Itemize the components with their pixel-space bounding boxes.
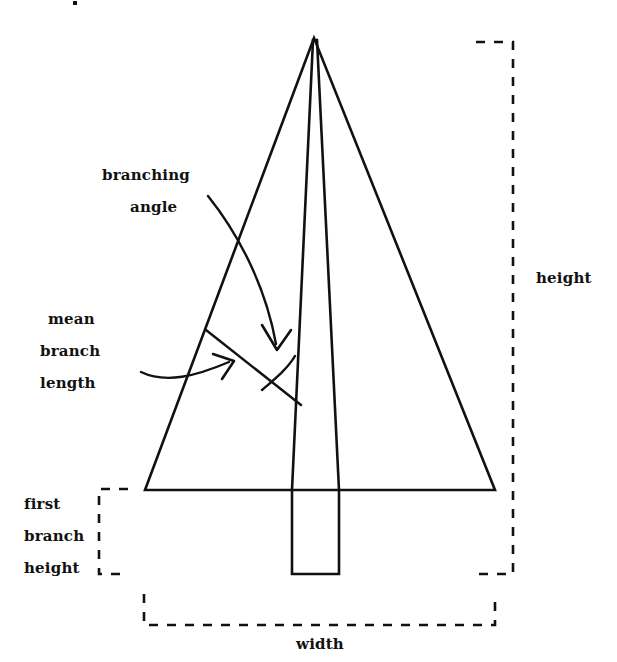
trunk-taper	[292, 40, 339, 574]
label-mean-branch-line3: length	[40, 376, 96, 391]
branching-angle-leader	[208, 196, 276, 344]
height-dimension-bracket	[476, 42, 513, 574]
label-first-branch-line1: first	[24, 497, 60, 512]
label-branching-angle-line2: angle	[130, 200, 177, 215]
mean-branch-length-leader	[141, 362, 229, 378]
label-first-branch-line2: branch	[24, 529, 84, 544]
branching-angle-arc	[262, 356, 295, 390]
label-mean-branch-line2: branch	[40, 344, 100, 359]
label-width: width	[296, 637, 344, 652]
label-first-branch-line3: height	[24, 561, 80, 576]
diagram-canvas	[0, 0, 617, 662]
first-branch-height-bracket	[99, 489, 128, 574]
branching-angle-arrowhead	[262, 325, 291, 350]
label-height: height	[536, 271, 592, 286]
width-dimension-bracket	[144, 594, 495, 625]
tree-architecture-figure: branching angle mean branch length first…	[0, 0, 617, 662]
scan-artifact-speck	[73, 1, 77, 5]
label-branching-angle-line1: branching	[102, 168, 190, 183]
label-mean-branch-line1: mean	[48, 312, 95, 327]
